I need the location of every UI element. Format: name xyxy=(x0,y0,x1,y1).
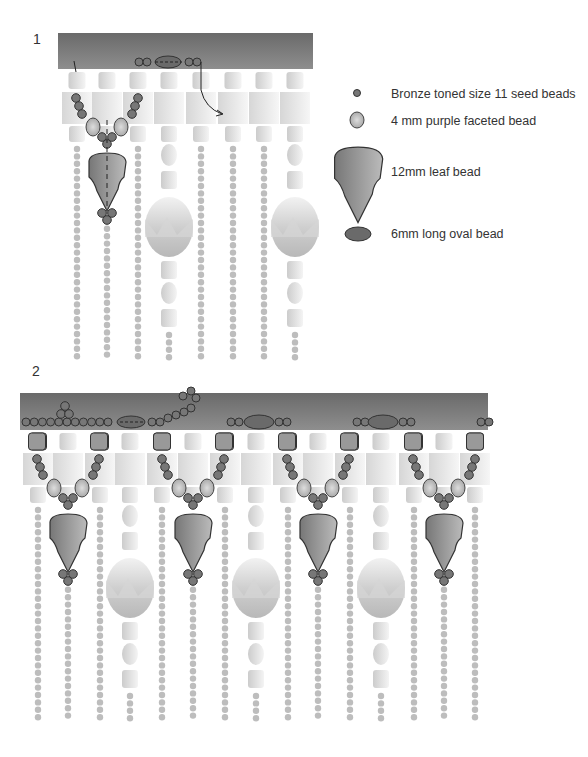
legend-label-faceted: 4 mm purple faceted bead xyxy=(391,114,536,128)
step-1-panel xyxy=(58,33,319,360)
step-2-panel xyxy=(20,387,493,721)
legend xyxy=(335,90,383,242)
legend-label-seed: Bronze toned size 11 seed beads xyxy=(391,87,576,101)
legend-label-oval: 6mm long oval bead xyxy=(391,227,504,241)
legend-label-leaf: 12mm leaf bead xyxy=(391,165,481,179)
